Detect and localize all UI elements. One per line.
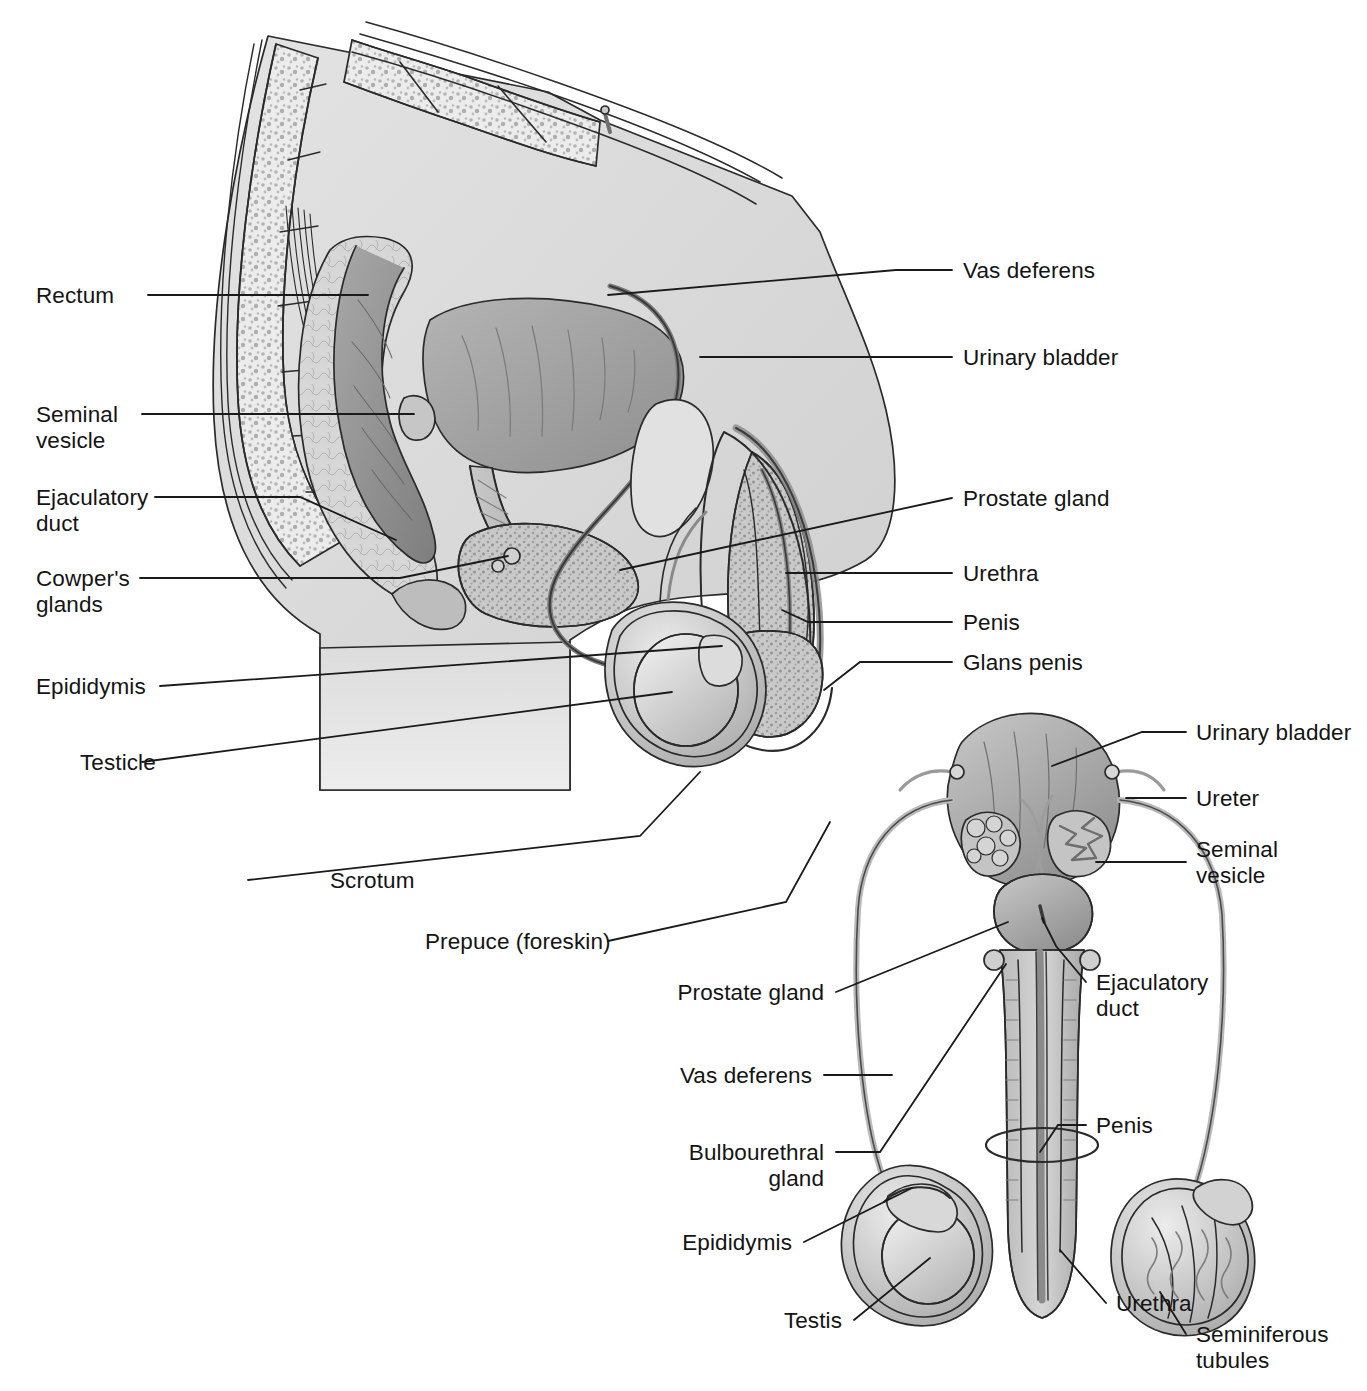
label-anterior-urinary-bladder: Urinary bladder [1196,720,1351,746]
label-anterior-ejaculatory-duct: Ejaculatory duct [1096,970,1208,1022]
anterior-illustration [841,713,1254,1335]
label-sagittal-prepuce: Prepuce (foreskin) [425,929,611,955]
label-anterior-testis: Testis [700,1308,842,1334]
label-anterior-bulbourethral-gland: Bulbourethral gland [612,1140,824,1192]
label-sagittal-seminal-vesicle: Seminal vesicle [36,402,118,454]
leader-glans-penis [824,662,952,690]
leader-ant-prostate-gland [836,922,1008,992]
label-sagittal-glans-penis: Glans penis [963,650,1083,676]
leader-prepuce [608,822,830,941]
label-sagittal-vas-deferens: Vas deferens [963,258,1095,284]
label-sagittal-prostate-gland: Prostate gland [963,486,1110,512]
label-anterior-penis: Penis [1096,1113,1153,1139]
label-sagittal-urinary-bladder: Urinary bladder [963,345,1118,371]
label-sagittal-testicle: Testicle [80,750,156,776]
label-sagittal-cowpers-glands: Cowper's glands [36,566,130,618]
label-anterior-urethra: Urethra [1116,1291,1192,1317]
label-anterior-vas-deferens: Vas deferens [612,1063,812,1089]
label-sagittal-epididymis: Epididymis [36,674,146,700]
label-sagittal-penis: Penis [963,610,1020,636]
label-sagittal-ejaculatory-duct: Ejaculatory duct [36,485,148,537]
label-anterior-seminiferous-tubules: Seminiferous tubules [1196,1322,1329,1374]
label-anterior-prostate-gland: Prostate gland [612,980,824,1006]
label-anterior-epididymis: Epididymis [612,1230,792,1256]
label-sagittal-urethra: Urethra [963,561,1039,587]
label-anterior-ureter: Ureter [1196,786,1259,812]
label-sagittal-scrotum: Scrotum [330,868,414,894]
label-anterior-seminal-vesicle: Seminal vesicle [1196,837,1278,889]
label-sagittal-rectum: Rectum [36,283,114,309]
anatomy-figure: Rectum Seminal vesicle Ejaculatory duct … [0,0,1367,1391]
